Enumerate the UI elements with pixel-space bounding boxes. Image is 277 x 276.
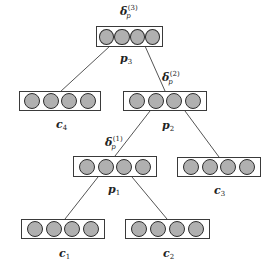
- neuron-icon: [239, 159, 255, 175]
- neuron-icon: [183, 159, 199, 175]
- node-p1-vector: [73, 156, 157, 177]
- edge-p1-c2: [132, 177, 167, 219]
- neuron-icon: [116, 159, 132, 175]
- node-p3-vector: [96, 26, 163, 47]
- neuron-icon: [79, 159, 95, 175]
- neuron-icon: [27, 221, 43, 237]
- neuron-icon: [150, 221, 166, 237]
- edge-p3-c4: [60, 46, 110, 92]
- delta-p3-label: δp(3): [120, 6, 142, 17]
- neuron-icon: [135, 159, 151, 175]
- neuron-icon: [202, 159, 218, 175]
- node-c1-label: c1: [59, 248, 70, 261]
- neuron-icon: [83, 221, 99, 237]
- neuron-icon: [131, 221, 147, 237]
- neuron-icon: [220, 159, 236, 175]
- edge-p3-p2: [145, 46, 165, 91]
- neuron-icon: [145, 29, 160, 45]
- node-c2-label: c2: [163, 248, 174, 261]
- neuron-icon: [80, 93, 96, 109]
- neuron-icon: [148, 93, 164, 109]
- node-c1-vector: [21, 219, 105, 239]
- neuron-icon: [169, 221, 185, 237]
- node-c4-label: c4: [56, 119, 67, 132]
- delta-p2-label: δp(2): [162, 72, 184, 83]
- edge-p2-p1: [115, 111, 150, 156]
- node-c3-vector: [177, 157, 261, 177]
- neuron-icon: [46, 221, 62, 237]
- neuron-icon: [114, 29, 129, 45]
- neuron-icon: [185, 93, 201, 109]
- delta-p1-label: δp(1): [105, 137, 127, 148]
- node-c4-vector: [19, 91, 101, 111]
- node-p2-vector: [123, 91, 207, 111]
- neuron-icon: [188, 221, 204, 237]
- neuron-icon: [98, 159, 114, 175]
- neuron-icon: [129, 93, 145, 109]
- neuron-icon: [166, 93, 182, 109]
- node-p1-label: p1: [108, 184, 120, 197]
- node-p2-label: p2: [162, 120, 174, 133]
- neuron-icon: [24, 93, 40, 109]
- neuron-icon: [64, 221, 80, 237]
- node-c2-vector: [125, 219, 210, 239]
- edge-p1-c1: [65, 177, 98, 219]
- neuron-icon: [99, 29, 114, 45]
- node-c3-label: c3: [214, 185, 225, 198]
- node-p3-label: p3: [120, 53, 132, 66]
- edge-p2-c3: [185, 111, 219, 157]
- neuron-icon: [43, 93, 59, 109]
- neuron-icon: [130, 29, 145, 45]
- neuron-icon: [61, 93, 77, 109]
